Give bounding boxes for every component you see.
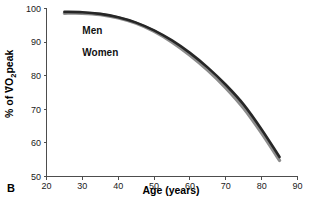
x-tick-label: 40 [113,181,123,191]
y-axis-title-prefix: % of V [3,86,15,118]
figure-panel-b: 5060708090100 2030405060708090 MenWomen … [0,0,309,199]
x-tick-label: 90 [292,181,302,191]
svg-text:% of VO2peak: % of VO2peak [3,49,18,118]
x-tick-label: 80 [257,181,267,191]
y-axis-title-o: O [3,78,15,86]
x-tick-label: 30 [77,181,87,191]
x-tick-label: 70 [221,181,231,191]
chart-canvas: 5060708090100 2030405060708090 MenWomen … [0,0,309,199]
y-tick-label: 60 [31,138,41,148]
x-tick-label: 20 [41,181,51,191]
panel-label: B [7,182,15,194]
y-tick-label: 90 [31,37,41,47]
axes-group: 5060708090100 2030405060708090 [26,4,303,191]
y-tick-label: 80 [31,71,41,81]
series-label-women: Women [82,47,118,58]
v-dot-marker [5,88,7,90]
y-tick-label: 50 [31,172,41,182]
y-axis-title: % of VO2peak [3,49,18,118]
series-label-men: Men [82,25,102,36]
y-tick-label: 70 [31,105,41,115]
y-axis-tick-labels: 5060708090100 [26,4,41,182]
y-axis-title-suffix: peak [3,49,15,73]
x-axis-title: Age (years) [142,184,199,196]
series-annotations: MenWomen [82,25,118,58]
y-tick-label: 100 [26,4,41,14]
